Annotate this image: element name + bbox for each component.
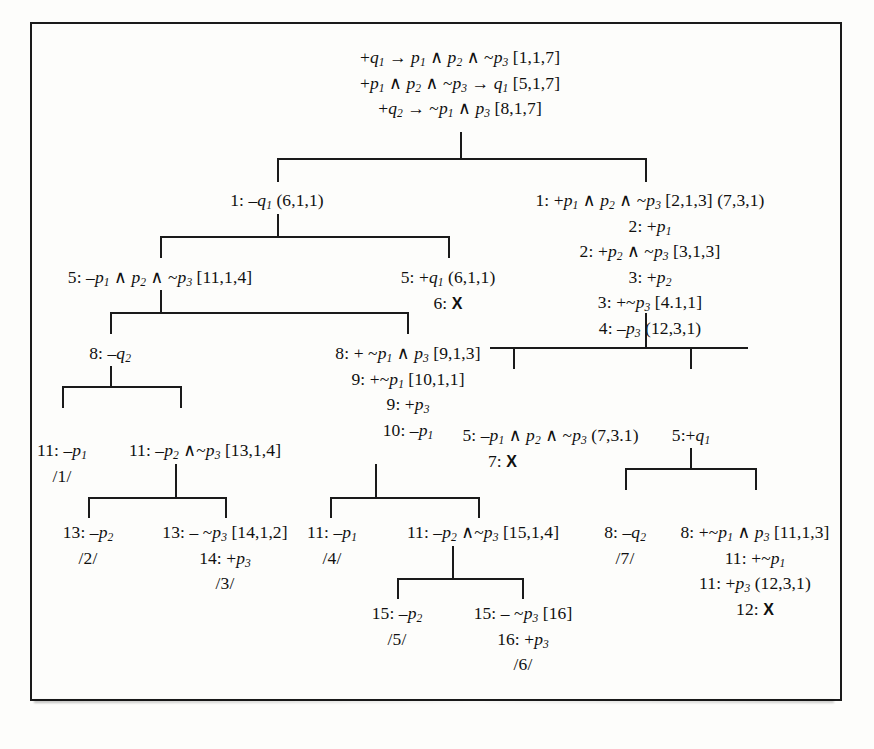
node-right-1-line-6: 4: –p3 (12,3,1) [455, 318, 845, 344]
node-8-np1-p3-line-1: 8: + ~p1 ∧ p3 [9,1,3] [303, 343, 513, 369]
node-15-np3-line-3: /6/ [452, 654, 594, 675]
node-right-1-line-3: 2: +p2 ∧ ~p3 [3,1,3] [455, 241, 845, 267]
connector-n10p1-stem [375, 464, 377, 482]
connector-n11p2-stem [175, 464, 177, 482]
connector-root-split [277, 158, 645, 160]
node-8-np1-p3-line-3: 9: +p3 [303, 394, 513, 420]
connector-n10p1-left-drop [330, 497, 332, 518]
node-5-q1: 5:+q1 [648, 425, 734, 451]
connector-n4p3-stem [645, 313, 647, 331]
connector-n4p3-right-drop [690, 347, 692, 369]
connector-n10p1-mid-stem [375, 482, 377, 497]
connector-n5q1-stem [690, 448, 692, 468]
scanned-page: +q1 → p1 ∧ p2 ∧ ~p3 [1,1,7] +p1 ∧ p2 ∧ ~… [0, 0, 874, 749]
node-15-np3: 15: – ~p3 [16] 16: +p3 /6/ [452, 603, 594, 675]
root-line-1: +q1 → p1 ∧ p2 ∧ ~p3 [1,1,7] [315, 47, 605, 73]
connector-left1-stem [277, 214, 279, 236]
node-8-np1-p3-right-line-4: 12: X [658, 599, 852, 620]
node-8-q2-right-line-2: /7/ [580, 548, 670, 569]
connector-left1-left-drop [160, 236, 162, 258]
connector-n10p1-right-drop [478, 497, 480, 518]
node-8-np1-p3-right-line-2: 11: +~p1 [658, 548, 852, 574]
root-line-3: +q2 → ~p1 ∧ p3 [8,1,7] [315, 98, 605, 124]
node-5-left: 5: –p1 ∧ p2 ∧ ~p3 [11,1,4] [40, 267, 280, 293]
connector-n5left-split [110, 312, 407, 314]
connector-n8q2-stem [110, 366, 112, 386]
node-11-p2-np3-b: 11: –p2 ∧~p3 [15,1,4] [378, 522, 588, 548]
node-5-mid: 5: –p1 ∧ p2 ∧ ~p3 (7,3.1) 7: X [428, 425, 673, 472]
node-right-1-line-5: 3: +~p3 [4.1,1] [455, 292, 845, 318]
root-premises: +q1 → p1 ∧ p2 ∧ ~p3 [1,1,7] +p1 ∧ p2 ∧ ~… [315, 47, 605, 124]
connector-n11p2-right-drop [225, 497, 227, 518]
connector-n5q1-split [625, 468, 755, 470]
node-15-np3-line-1: 15: – ~p3 [16] [452, 603, 594, 629]
connector-n4p3-mid-stem [645, 331, 647, 347]
node-right-1: 1: +p1 ∧ p2 ∧ ~p3 [2,1,3] (7,3,1) 2: +p1… [455, 190, 845, 343]
node-left-1: 1: –q1 (6,1,1) [177, 190, 377, 216]
connector-n11p2-mid-stem [175, 482, 177, 497]
connector-n11p2b-stem [452, 546, 454, 562]
node-15-p2-line-1: 15: –p2 [347, 603, 447, 629]
node-11-p2-np3-b-line-1: 11: –p2 ∧~p3 [15,1,4] [378, 522, 588, 548]
connector-n11p2b-left-drop [397, 578, 399, 599]
connector-root-right-drop [645, 158, 647, 182]
node-8-np1-p3-right-line-3: 11: +p3 (12,3,1) [658, 573, 852, 599]
connector-n11p2b-mid-stem [452, 562, 454, 578]
connector-n5q1-left-drop [625, 468, 627, 490]
node-5-mid-line-1: 5: –p1 ∧ p2 ∧ ~p3 (7,3.1) [428, 425, 673, 451]
node-left-1-line-1: 1: –q1 (6,1,1) [177, 190, 377, 216]
node-5-q1-line-1: 5:+q1 [648, 425, 734, 451]
node-right-1-line-2: 2: +p1 [455, 216, 845, 242]
node-8-np1-p3-line-2: 9: +~p1 [10,1,1] [303, 369, 513, 395]
connector-n10p1-split [330, 497, 478, 499]
node-8-q2-right: 8: –q2 /7/ [580, 522, 670, 569]
node-13-p2-line-1: 13: –p2 [38, 522, 138, 548]
connector-n8q2-left-drop [62, 386, 64, 408]
node-right-1-line-4: 3: +p2 [455, 267, 845, 293]
connector-n5q1-right-drop [755, 468, 757, 490]
connector-n11p2b-split [397, 578, 522, 580]
connector-n5left-left-drop [110, 312, 112, 334]
connector-n8q2-split [62, 386, 180, 388]
node-8-q2-right-line-1: 8: –q2 [580, 522, 670, 548]
node-11-p2-np3-line-1: 11: –p2 ∧~p3 [13,1,4] [105, 440, 305, 466]
node-13-np3-line-3: /3/ [135, 573, 315, 594]
node-8-np1-p3-right: 8: +~p1 ∧ p3 [11,1,3] 11: +~p1 11: +p3 (… [658, 522, 852, 620]
node-11-np1-line-1: 11: –p1 [282, 522, 382, 548]
connector-root-stem [460, 132, 462, 158]
node-8-q2-line-1: 8: –q2 [50, 343, 170, 369]
node-15-np3-line-2: 16: +p3 [452, 629, 594, 655]
connector-left1-right-drop [448, 236, 450, 258]
connector-n5left-right-drop [407, 312, 409, 334]
root-line-2: +p1 ∧ p2 ∧ ~p3 → q1 [5,1,7] [315, 73, 605, 99]
node-11-np1-line-2: /4/ [282, 548, 382, 569]
node-5-left-line-1: 5: –p1 ∧ p2 ∧ ~p3 [11,1,4] [40, 267, 280, 293]
connector-root-left-drop [277, 158, 279, 182]
node-8-np1-p3-right-line-1: 8: +~p1 ∧ p3 [11,1,3] [658, 522, 852, 548]
node-11-p1: 11: –p1 /1/ [12, 440, 112, 487]
connector-n4p3-split [490, 347, 748, 349]
node-8-q2: 8: –q2 [50, 343, 170, 369]
node-11-np1: 11: –p1 /4/ [282, 522, 382, 569]
connector-n11p2b-right-drop [522, 578, 524, 599]
connector-n5left-stem [160, 290, 162, 312]
node-11-p1-line-2: /1/ [12, 466, 112, 487]
connector-n8q2-right-drop [180, 386, 182, 408]
connector-n11p2-left-drop [88, 497, 90, 518]
node-13-p2: 13: –p2 /2/ [38, 522, 138, 569]
connector-n4p3-left-drop [513, 347, 515, 369]
node-right-1-line-1: 1: +p1 ∧ p2 ∧ ~p3 [2,1,3] (7,3,1) [455, 190, 845, 216]
node-15-p2-line-2: /5/ [347, 629, 447, 650]
node-15-p2: 15: –p2 /5/ [347, 603, 447, 650]
node-11-p1-line-1: 11: –p1 [12, 440, 112, 466]
node-11-p2-np3: 11: –p2 ∧~p3 [13,1,4] [105, 440, 305, 466]
connector-n11p2-split [88, 497, 225, 499]
connector-left1-split [160, 236, 448, 238]
node-13-p2-line-2: /2/ [38, 548, 138, 569]
